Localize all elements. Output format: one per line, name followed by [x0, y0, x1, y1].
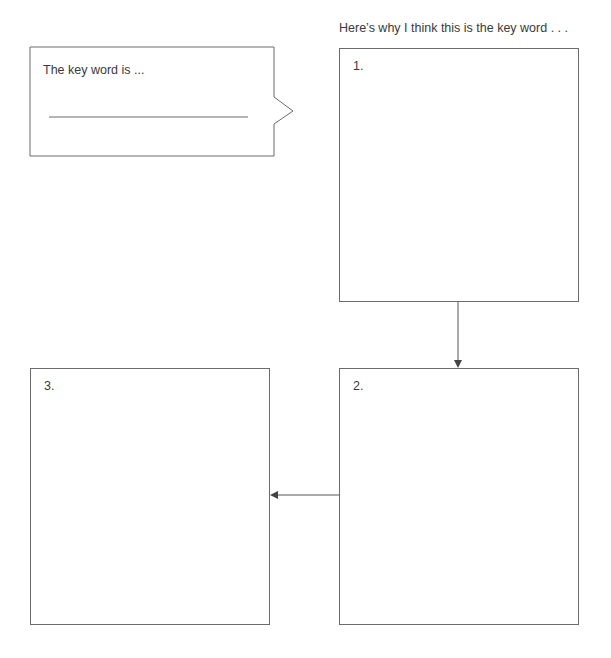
reasons-heading: Here’s why I think this is the key word … [339, 21, 568, 35]
key-word-prompt: The key word is ... [43, 63, 144, 77]
arrowhead-left-icon [270, 491, 278, 499]
reason-box-3-number: 3. [44, 379, 54, 393]
reason-box-2[interactable]: 2. [339, 368, 579, 625]
key-word-answer-field[interactable] [49, 104, 248, 117]
arrowhead-down-icon [454, 360, 462, 368]
reason-box-3[interactable]: 3. [30, 368, 270, 625]
reason-box-1[interactable]: 1. [339, 48, 579, 302]
reason-box-2-number: 2. [353, 379, 363, 393]
reason-box-1-number: 1. [353, 59, 363, 73]
